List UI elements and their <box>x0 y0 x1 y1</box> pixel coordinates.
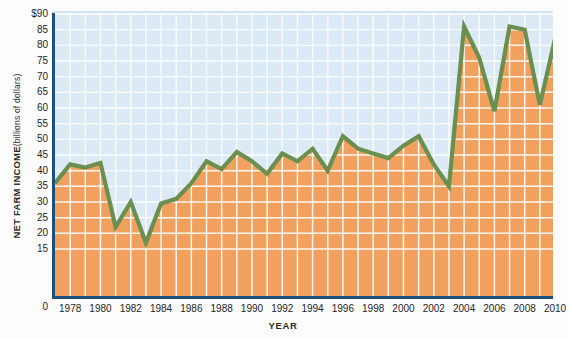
x-axis-title: YEAR <box>0 320 566 331</box>
x-axis-tick-label: 2010 <box>535 303 571 314</box>
